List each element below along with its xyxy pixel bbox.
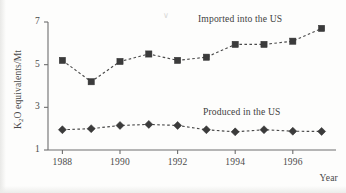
scan-speck: ∨ [163, 11, 169, 20]
y-axis-title: K2O equivalents/Mt [12, 26, 23, 154]
x-tick-label: 1994 [218, 157, 252, 167]
y-tick-label: 5 [26, 59, 40, 69]
series-line [62, 124, 321, 131]
y-tick-label: 7 [26, 16, 40, 26]
data-point-marker-square [117, 58, 123, 64]
x-tick-label: 1992 [161, 157, 195, 167]
x-tick-label: 1996 [276, 157, 310, 167]
series-label-produced: Produced in the US [203, 106, 281, 117]
chart-figure: 1357 19881990199219941996 K2O equivalent… [0, 0, 346, 193]
data-point-marker-diamond [87, 125, 95, 133]
x-tick-label: 1988 [45, 157, 79, 167]
data-point-marker-diamond [174, 121, 182, 129]
y-tick-label: 3 [26, 101, 40, 111]
data-point-marker-diamond [231, 128, 239, 136]
data-point-marker-square [203, 54, 209, 60]
data-point-marker-diamond [116, 121, 124, 129]
data-point-marker-diamond [289, 127, 297, 135]
series-layer [58, 25, 325, 136]
series-imported [59, 25, 324, 85]
data-point-marker-diamond [318, 127, 326, 135]
x-axis-ticks [62, 150, 292, 154]
data-point-marker-square [59, 57, 65, 63]
data-point-marker-square [290, 38, 296, 44]
data-point-marker-diamond [145, 120, 153, 128]
data-point-marker-square [261, 41, 267, 47]
x-axis-title: Year [320, 172, 338, 183]
data-point-marker-square [232, 41, 238, 47]
series-line [62, 28, 321, 81]
data-point-marker-diamond [260, 126, 268, 134]
y-axis-title-subscript: 2 [17, 118, 25, 122]
y-axis-ticks [44, 22, 48, 150]
data-point-marker-diamond [58, 126, 66, 134]
data-point-marker-diamond [202, 126, 210, 134]
data-point-marker-square [88, 79, 94, 85]
x-tick-label: 1990 [103, 157, 137, 167]
series-label-imported: Imported into the US [198, 13, 282, 24]
y-tick-label: 1 [26, 144, 40, 154]
data-point-marker-square [319, 25, 325, 31]
data-point-marker-square [175, 57, 181, 63]
series-produced [58, 120, 325, 135]
data-point-marker-square [146, 51, 152, 57]
